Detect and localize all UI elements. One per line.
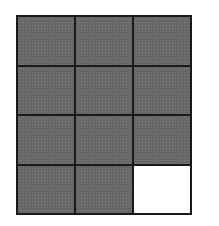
- fraction-grid: [16, 15, 192, 215]
- shaded-cell: [76, 67, 132, 115]
- shaded-cell: [76, 116, 132, 164]
- shaded-cell: [134, 17, 190, 65]
- shaded-cell: [134, 116, 190, 164]
- shaded-cell: [76, 17, 132, 65]
- shaded-cell: [134, 67, 190, 115]
- shaded-cell: [18, 67, 74, 115]
- shaded-cell: [18, 17, 74, 65]
- shaded-cell: [18, 116, 74, 164]
- shaded-cell: [76, 166, 132, 214]
- shaded-cell: [18, 166, 74, 214]
- empty-cell: [134, 166, 190, 214]
